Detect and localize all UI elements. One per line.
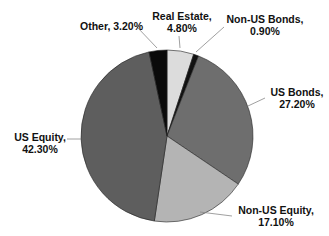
label-real-estate-value: 4.80%	[150, 22, 214, 34]
label-non-us-bonds-value: 0.90%	[220, 25, 310, 37]
label-us-equity-name: US Equity,	[10, 131, 70, 143]
pie-slice-us-equity	[81, 52, 167, 221]
label-other-name: Other, 3.20%	[80, 20, 140, 32]
label-non-us-bonds: Non-US Bonds, 0.90%	[220, 13, 310, 37]
label-real-estate-name: Real Estate,	[150, 10, 214, 22]
leader-line-real-estate	[179, 36, 180, 48]
label-non-us-equity-value: 17.10%	[232, 216, 320, 228]
leader-line-non-us-equity	[200, 212, 232, 216]
pie-slices	[81, 50, 253, 222]
label-non-us-bonds-name: Non-US Bonds,	[220, 13, 310, 25]
label-real-estate: Real Estate, 4.80%	[150, 10, 214, 34]
label-us-bonds-value: 27.20%	[266, 98, 328, 110]
label-non-us-equity-name: Non-US Equity,	[232, 204, 320, 216]
label-non-us-equity: Non-US Equity, 17.10%	[232, 204, 320, 228]
label-other: Other, 3.20%	[80, 20, 140, 32]
label-us-bonds: US Bonds, 27.20%	[266, 86, 328, 110]
label-us-bonds-name: US Bonds,	[266, 86, 328, 98]
label-us-equity: US Equity, 42.30%	[10, 131, 70, 155]
leader-line-us-bonds	[248, 98, 265, 106]
label-us-equity-value: 42.30%	[10, 143, 70, 155]
